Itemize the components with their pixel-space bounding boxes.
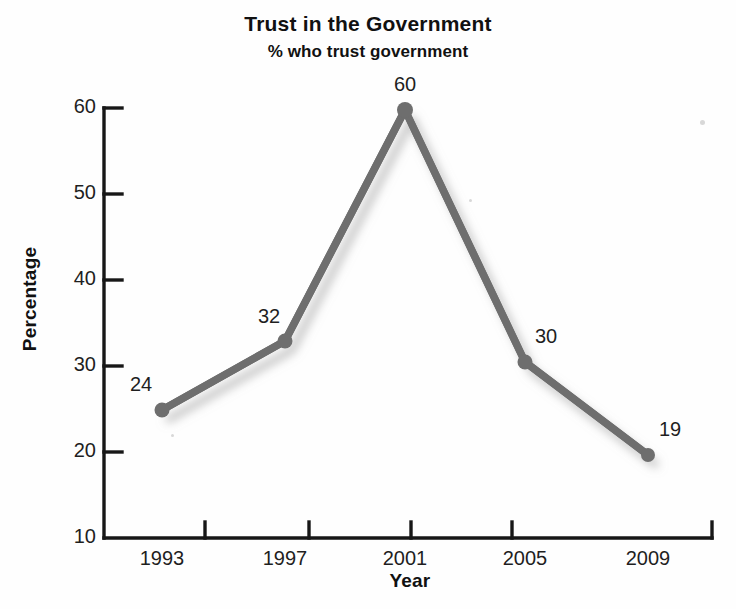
- line-chart-svg: [0, 0, 736, 609]
- axis-lines: [104, 108, 712, 538]
- scan-speckle: [469, 199, 472, 202]
- x-axis-ticks: [205, 522, 512, 538]
- data-point-marker: [518, 355, 533, 370]
- scan-speckle: [700, 120, 705, 125]
- y-axis-title: Percentage: [19, 229, 41, 369]
- x-axis-title: Year: [104, 570, 716, 592]
- y-tick-label-30: 30: [52, 353, 96, 376]
- data-label-2005: 30: [524, 325, 568, 348]
- y-axis-ticks: [104, 108, 122, 452]
- y-tick-label-60: 60: [52, 95, 96, 118]
- data-label-2009: 19: [648, 418, 692, 441]
- x-tick-label-1997: 1997: [240, 547, 330, 570]
- y-tick-label-10: 10: [52, 525, 96, 548]
- data-label-1993: 24: [119, 373, 163, 396]
- chart-page: Trust in the Government % who trust gove…: [0, 0, 736, 609]
- data-label-2001: 60: [383, 73, 427, 96]
- scan-speckle: [171, 434, 174, 437]
- data-point-marker: [278, 334, 293, 349]
- plot-area: [0, 0, 736, 609]
- y-tick-label-50: 50: [52, 181, 96, 204]
- y-tick-label-40: 40: [52, 267, 96, 290]
- data-series-line: [162, 110, 648, 455]
- x-tick-label-2001: 2001: [360, 547, 450, 570]
- x-tick-label-1993: 1993: [117, 547, 207, 570]
- data-point-marker: [155, 403, 170, 418]
- data-point-marker: [397, 102, 413, 118]
- y-tick-label-20: 20: [52, 439, 96, 462]
- x-tick-label-2009: 2009: [603, 547, 693, 570]
- data-label-1997: 32: [247, 305, 291, 328]
- data-point-marker: [641, 448, 655, 462]
- x-tick-label-2005: 2005: [480, 547, 570, 570]
